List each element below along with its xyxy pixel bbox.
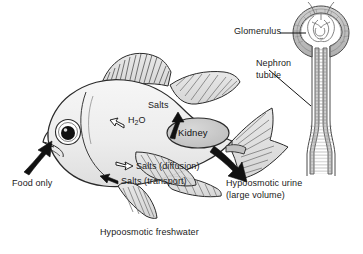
figure-caption: Hypoosmotic freshwater xyxy=(100,227,199,238)
label-water-o: O xyxy=(139,115,146,125)
label-nephron-tubule: Nephron tubule xyxy=(256,58,300,81)
soft-dorsal-fin xyxy=(170,72,240,105)
label-hypoosmotic-urine: Hypoosmotic urine (large volume) xyxy=(226,178,302,201)
label-water-subscript: 2 xyxy=(135,119,139,126)
label-urine-line2: (large volume) xyxy=(226,190,285,200)
label-water: H2O xyxy=(128,115,146,126)
label-salts: Salts xyxy=(148,100,169,111)
label-food-only: Food only xyxy=(12,178,52,189)
osmoregulation-figure: Glomerulus Nephron tubule Salts H2O Kidn… xyxy=(0,0,363,254)
label-water-h: H xyxy=(128,115,135,125)
label-urine-line1: Hypoosmotic urine xyxy=(226,178,302,188)
label-salts-diffusion: Salts (diffusion) xyxy=(136,161,200,172)
nephron-tubule-shape xyxy=(307,46,335,176)
food-arrow xyxy=(24,141,52,175)
label-glomerulus: Glomerulus xyxy=(234,26,281,37)
label-nephron-tubule-line2: tubule xyxy=(256,70,281,80)
fish-eye xyxy=(56,120,81,145)
pelvic-fin xyxy=(118,182,157,218)
label-salts-transport: Salts (transport) xyxy=(121,176,187,187)
glomerulus-capillaries xyxy=(308,13,335,42)
label-kidney: Kidney xyxy=(178,127,208,138)
label-nephron-tubule-line1: Nephron xyxy=(256,58,291,68)
